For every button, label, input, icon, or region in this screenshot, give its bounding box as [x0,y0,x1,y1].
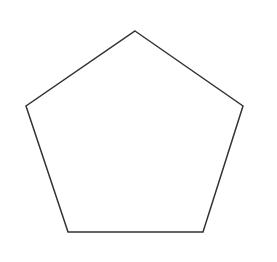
image-canvas [0,0,277,262]
pentagon-figure [0,0,277,262]
